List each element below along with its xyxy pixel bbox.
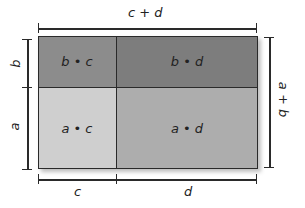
left-dimension-tick-mid [22,87,32,88]
bottom-dimension-tick-left [38,174,39,184]
bottom-dimension-label-d: d [184,184,192,199]
bottom-dimension-tick-mid [116,174,117,184]
left-dimension-line [27,39,29,169]
left-dimension-tick-top [22,39,32,40]
left-dimension-label-a: a [7,123,22,131]
right-dimension-tick-bottom [264,167,274,168]
top-dimension-line [38,28,257,30]
bottom-dimension-tick-right [256,174,257,184]
rectangle-outline [38,36,258,169]
top-dimension-tick-left [38,23,39,33]
right-dimension-label: a + b [276,82,291,117]
right-dimension-line [269,37,271,167]
top-dimension-tick-right [256,23,257,33]
top-dimension-label: c + d [128,5,163,20]
left-dimension-label-b: b [8,59,23,67]
bottom-dimension-label-c: c [74,184,81,199]
left-dimension-tick-bottom [22,169,32,170]
right-dimension-tick-top [264,37,274,38]
bottom-dimension-line [38,179,257,181]
